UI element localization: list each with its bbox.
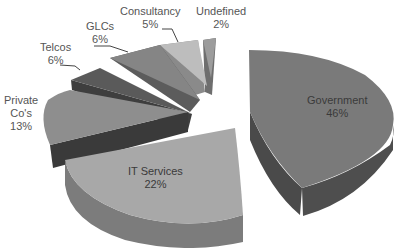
label-glcs-pct: 6% xyxy=(86,33,114,46)
label-private-name2: Co's xyxy=(4,107,38,120)
label-it-services-name: IT Services xyxy=(128,165,183,178)
slice-undefined xyxy=(203,38,216,95)
label-undefined: Undefined 2% xyxy=(196,5,246,31)
label-telcos-pct: 6% xyxy=(40,54,71,67)
label-undefined-pct: 2% xyxy=(196,18,246,31)
label-private-name1: Private xyxy=(4,94,38,107)
label-government-name: Government xyxy=(307,94,368,107)
label-it-services-pct: 22% xyxy=(128,178,183,191)
label-private-pct: 13% xyxy=(4,120,38,133)
label-consultancy-pct: 5% xyxy=(120,18,181,31)
label-it-services: IT Services 22% xyxy=(128,165,183,191)
label-telcos: Telcos 6% xyxy=(40,41,71,67)
slice-government xyxy=(249,50,394,216)
label-glcs-name: GLCs xyxy=(86,20,114,33)
label-glcs: GLCs 6% xyxy=(86,20,114,46)
pie-chart xyxy=(0,0,410,248)
label-government: Government 46% xyxy=(307,94,368,120)
label-private: Private Co's 13% xyxy=(4,94,38,133)
label-government-pct: 46% xyxy=(307,107,368,120)
label-consultancy-name: Consultancy xyxy=(120,5,181,18)
label-consultancy: Consultancy 5% xyxy=(120,5,181,31)
label-telcos-name: Telcos xyxy=(40,41,71,54)
label-undefined-name: Undefined xyxy=(196,5,246,18)
